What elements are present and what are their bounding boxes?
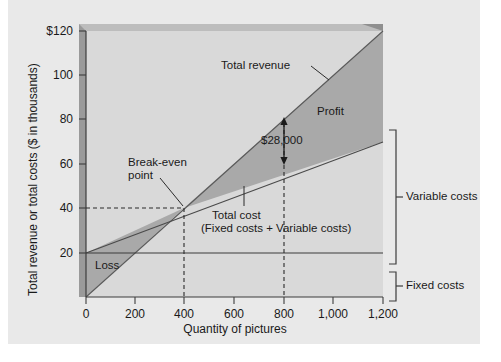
- y-axis-title: Total revenue or total costs ($ in thous…: [26, 63, 40, 296]
- y-tick-label-60: 60: [27, 157, 73, 171]
- x-tick-label-800: 800: [261, 307, 307, 321]
- x-tick-label-600: 600: [211, 307, 257, 321]
- profit-value-label: $28,000: [261, 134, 303, 148]
- x-tick-label-0: 0: [63, 307, 109, 321]
- total-cost-label-line2: (Fixed costs + Variable costs): [201, 222, 351, 236]
- break-even-label-line1: Break-even: [128, 156, 187, 170]
- profit-label: Profit: [317, 105, 344, 119]
- fixed-costs-label: Fixed costs: [406, 279, 464, 293]
- variable-costs-label: Variable costs: [406, 190, 477, 204]
- loss-label: Loss: [95, 259, 119, 273]
- break-even-label-line2: point: [128, 169, 153, 183]
- x-axis-ticks: [86, 297, 383, 304]
- y-tick-label-20: 20: [27, 246, 73, 260]
- x-tick-label-400: 400: [161, 307, 207, 321]
- figure-canvas: Total revenue or total costs ($ in thous…: [0, 0, 501, 362]
- y-tick-label-120: $120: [27, 24, 73, 38]
- y-tick-label-80: 80: [27, 112, 73, 126]
- y-tick-label-100: 100: [27, 68, 73, 82]
- x-tick-label-1200: 1,200: [360, 307, 406, 321]
- x-tick-label-200: 200: [112, 307, 158, 321]
- fixed-costs-bracket: [389, 272, 403, 301]
- plot-left-bevel: [79, 24, 86, 297]
- x-axis-title: Quantity of pictures: [135, 322, 335, 336]
- total-revenue-label: Total revenue: [221, 59, 290, 73]
- y-tick-label-40: 40: [27, 201, 73, 215]
- x-tick-label-1000: 1,000: [310, 307, 356, 321]
- total-cost-label-line1: Total cost: [212, 209, 261, 223]
- variable-costs-bracket: [389, 130, 403, 264]
